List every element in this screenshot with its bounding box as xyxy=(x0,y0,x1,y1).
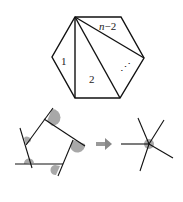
edge-left-top xyxy=(26,108,53,145)
edge-top-right xyxy=(44,119,85,146)
ray-down-right xyxy=(149,144,173,158)
angles-around-point xyxy=(121,118,173,171)
minus-two: −2 xyxy=(105,20,117,32)
edge-right-bottom xyxy=(58,140,73,176)
arrow-right-icon xyxy=(96,138,112,150)
triangle-n-minus-2-label: n−2 xyxy=(99,20,116,32)
angle-markers xyxy=(24,109,85,175)
pentagon-exterior-angles xyxy=(15,108,85,176)
polygon-angle-diagram: 1 2 ⋰ n−2 xyxy=(0,0,183,202)
ellipsis-label: ⋰ xyxy=(120,61,131,73)
ray-up-right xyxy=(149,120,164,144)
angle-marker-top xyxy=(47,109,61,126)
ray-up-left xyxy=(138,118,149,144)
triangle-2-label: 2 xyxy=(89,73,95,85)
ray-down-left xyxy=(140,144,149,171)
triangle-1-label: 1 xyxy=(61,55,67,67)
